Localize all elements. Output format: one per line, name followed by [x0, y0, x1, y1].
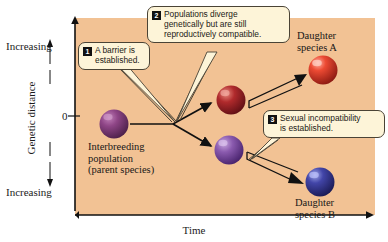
callout-2[interactable]: 2 Populations diverge genetically but ar… [147, 6, 290, 43]
sphere-parent [100, 110, 129, 139]
sphere-daughter-b [306, 168, 335, 197]
label-daughter-species-a: Daughter species A [297, 30, 337, 53]
label-daughter-species-b: Daughter species B [295, 197, 335, 220]
branch-arrows [130, 103, 211, 146]
callout-1[interactable]: 1 A barrier is established. [78, 42, 150, 70]
y-axis-zero-label: 0 [62, 110, 68, 122]
callout-3[interactable]: 3 Sexual incompatibility is established. [263, 110, 385, 138]
callout-3-badge: 3 [268, 115, 277, 124]
sphere-lineage-b-mid [215, 136, 244, 165]
callout-3-text: Sexual incompatibility is established. [280, 114, 361, 134]
diagram-canvas: Increasing Increasing 0 Genetic distance… [0, 0, 388, 242]
sphere-lineage-a-mid [217, 86, 246, 115]
double-arrow-to-daughter-a [249, 74, 307, 108]
y-axis-top-label: Increasing [6, 40, 52, 52]
callout-1-badge: 1 [83, 47, 92, 56]
callout-2-text: Populations diverge genetically but are … [164, 10, 261, 39]
y-axis-title: Genetic distance [25, 63, 37, 173]
callout-1-text: A barrier is established. [95, 46, 140, 66]
sphere-daughter-a [309, 56, 338, 85]
label-parent-species: Interbreeding population (parent species… [88, 141, 154, 176]
callout-2-badge: 2 [152, 11, 161, 20]
x-axis-title: Time [0, 224, 388, 236]
y-axis-bottom-label: Increasing [6, 186, 52, 198]
